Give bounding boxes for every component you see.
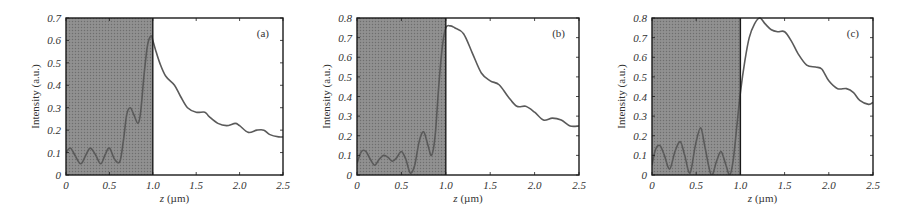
x-axis-label: z (µm) [159,192,190,205]
y-tick-label: 0.4 [633,91,647,103]
y-tick-label: 0.1 [47,147,61,159]
y-tick-label: 0.5 [47,57,61,69]
y-tick-label: 0 [347,169,353,181]
y-tick-label: 0.6 [47,34,61,46]
x-tick-label: 0.5 [689,179,703,191]
x-tick-label: 2.5 [866,179,880,191]
x-tick-label: 0 [354,179,360,191]
figure: 00.51.01.52.02.500.10.20.30.40.50.60.7z … [0,0,912,213]
x-tick-label: 0.5 [395,179,409,191]
x-axis-variable: z [159,192,167,204]
y-tick-label: 0 [56,169,62,181]
x-tick-label: 2.0 [822,179,836,191]
y-tick-label: 0.2 [338,130,352,142]
x-tick-label: 0 [649,179,655,191]
x-axis-label: z (µm) [452,192,483,205]
panel-label: (c) [847,27,860,40]
y-axis-label: Intensity (a.u.) [615,64,628,129]
x-tick-label: 1.5 [778,179,792,191]
x-tick-label: 0.5 [103,179,117,191]
y-axis-label: Intensity (a.u.) [320,64,333,129]
x-axis-unit: (µm) [755,192,778,205]
y-tick-label: 0.6 [338,51,352,63]
y-tick-label: 0.7 [633,32,647,44]
y-tick-label: 0.7 [338,32,352,44]
y-tick-label: 0 [642,169,648,181]
y-tick-label: 0.3 [47,102,61,114]
panel-label: (b) [552,27,565,40]
x-axis-unit: (µm) [460,192,483,205]
x-tick-label: 2.0 [528,179,542,191]
y-tick-label: 0.8 [338,12,352,24]
y-tick-label: 0.1 [338,149,352,161]
y-tick-label: 0.2 [47,124,61,136]
x-axis-unit: (µm) [167,192,190,205]
shaded-region [652,18,740,175]
y-tick-label: 0.7 [47,12,61,24]
x-tick-label: 1.0 [734,179,748,191]
chart-panel-b: 00.51.01.52.02.500.10.20.30.40.50.60.70.… [320,12,586,205]
y-tick-label: 0.5 [338,71,352,83]
y-tick-label: 0.2 [633,130,647,142]
y-tick-label: 0.5 [633,71,647,83]
y-tick-label: 0.1 [633,149,647,161]
y-tick-label: 0.4 [338,91,352,103]
x-tick-label: 0 [63,179,69,191]
chart-panel-a: 00.51.01.52.02.500.10.20.30.40.50.60.7z … [29,12,290,205]
y-tick-label: 0.8 [633,12,647,24]
x-tick-label: 2.0 [233,179,247,191]
y-tick-label: 0.6 [633,51,647,63]
x-axis-variable: z [452,192,460,204]
x-tick-label: 2.5 [276,179,290,191]
x-tick-label: 2.5 [572,179,586,191]
x-tick-label: 1.0 [146,179,160,191]
shaded-region [66,18,153,175]
x-axis-label: z (µm) [747,192,778,205]
panel-label: (a) [257,27,270,40]
y-axis-label: Intensity (a.u.) [29,64,42,129]
x-axis-variable: z [747,192,755,204]
x-tick-label: 1.5 [189,179,203,191]
y-tick-label: 0.3 [338,110,352,122]
x-tick-label: 1.5 [483,179,497,191]
y-tick-label: 0.3 [633,110,647,122]
chart-panel-c: 00.51.01.52.02.500.10.20.30.40.50.60.70.… [615,12,880,205]
x-tick-label: 1.0 [439,179,453,191]
y-tick-label: 0.4 [47,79,61,91]
